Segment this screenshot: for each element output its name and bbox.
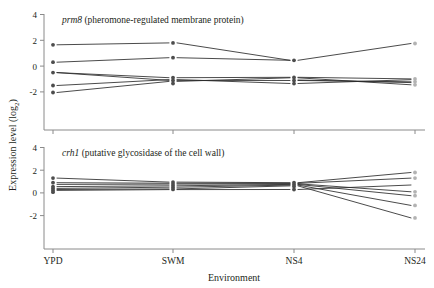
crh1-yticklabel-neg2: -2 (30, 211, 38, 221)
prm8-points-swm (171, 41, 175, 85)
panel-prm8: prm8 (pheromone-regulated membrane prote… (30, 10, 426, 134)
prm8-point-ypd-3 (51, 71, 55, 75)
panel-crh1-gene: crh1 (62, 148, 79, 158)
crh1-yticklabel-4: 4 (33, 143, 38, 153)
crh1-point-ns24-6 (413, 216, 417, 220)
y-axis-title: Expression level (log2) (7, 99, 21, 191)
prm8-point-ns24-4 (413, 83, 417, 87)
prm8-yticklabel-0: 0 (33, 62, 38, 72)
y-axis-title-text: Expression level (log2) (7, 99, 21, 191)
prm8-line-4-seg1 (57, 73, 169, 81)
crh1-points-swm (171, 180, 175, 191)
crh1-line-5-seg1 (57, 187, 169, 188)
prm8-line-6-seg1 (57, 81, 169, 92)
crh1-line-2-seg3 (298, 178, 411, 183)
crh1-yticklabel-2: 2 (33, 166, 38, 176)
prm8-point-ypd-5 (51, 91, 55, 95)
panel-crh1: crh1 (putative glycosidase of the cell w… (30, 143, 427, 283)
y-axis-title-close: ) (7, 99, 19, 102)
prm8-line-1-seg3 (298, 44, 411, 61)
panel-prm8-title: prm8 (pheromone-regulated membrane prote… (61, 15, 244, 26)
prm8-point-ypd-1 (51, 43, 55, 47)
expression-plot-svg: Expression level (log2) prm8 (pheromone-… (0, 0, 434, 288)
xticklabel-ns24: NS24 (404, 256, 426, 266)
crh1-point-ns24-3 (413, 190, 417, 194)
prm8-line-2-seg1 (57, 58, 169, 63)
crh1-point-ns4-4 (292, 188, 296, 192)
prm8-yticklabel-neg2: -2 (30, 87, 38, 97)
crh1-point-ns24-4 (413, 194, 417, 198)
xticklabel-ns4: NS4 (286, 256, 303, 266)
prm8-line-1-seg1 (57, 43, 169, 45)
prm8-point-ypd-4 (51, 84, 55, 88)
prm8-yticklabel-4: 4 (33, 10, 38, 20)
prm8-point-swm-2 (171, 56, 175, 60)
crh1-point-swm-5 (171, 188, 175, 192)
crh1-point-ypd-1 (51, 176, 55, 180)
prm8-point-swm-5 (171, 82, 175, 86)
xticklabel-ypd: YPD (43, 256, 62, 266)
crh1-point-ns24-5 (413, 204, 417, 208)
crh1-line-1-seg1 (57, 178, 169, 182)
crh1-points-ypd (51, 176, 55, 194)
crh1-line-2-seg1 (57, 183, 169, 184)
crh1-point-ns24-2 (413, 176, 417, 180)
x-axis-title: Environment (208, 272, 260, 283)
panel-crh1-desc: (putative glycosidase of the cell wall) (79, 148, 224, 159)
crh1-points-ns24 (413, 171, 417, 220)
crh1-point-ns24-1 (413, 171, 417, 175)
crh1-line-1-seg3 (298, 173, 411, 183)
prm8-points-ns4 (292, 58, 296, 85)
prm8-point-ypd-2 (51, 60, 55, 64)
prm8-series-lines (57, 43, 411, 93)
prm8-point-ns4-1 (292, 58, 296, 62)
panel-prm8-gene: prm8 (61, 15, 82, 25)
prm8-point-ns24-1 (413, 42, 417, 46)
crh1-line-4-seg1 (57, 186, 169, 187)
panel-prm8-desc: (pheromone-regulated membrane protein) (82, 15, 244, 26)
crh1-point-ypd-6 (51, 190, 55, 194)
prm8-point-swm-1 (171, 41, 175, 45)
crh1-points-ns4 (292, 181, 296, 192)
figure-panel-container: Expression level (log2) prm8 (pheromone-… (0, 0, 434, 288)
crh1-line-1-seg2 (177, 182, 290, 183)
xticklabel-swm: SWM (162, 256, 185, 266)
prm8-points-ns24 (413, 42, 417, 87)
crh1-yticklabel-0: 0 (33, 188, 38, 198)
prm8-points-ypd (51, 43, 55, 95)
panel-crh1-title: crh1 (putative glycosidase of the cell w… (62, 148, 224, 159)
y-axis-title-main: Expression level (log (7, 106, 19, 191)
crh1-series-lines (57, 173, 411, 218)
prm8-yticklabel-2: 2 (33, 36, 38, 46)
prm8-line-5-seg1 (57, 80, 169, 86)
crh1-point-ypd-2 (51, 181, 55, 185)
prm8-point-ns4-4 (292, 82, 296, 86)
